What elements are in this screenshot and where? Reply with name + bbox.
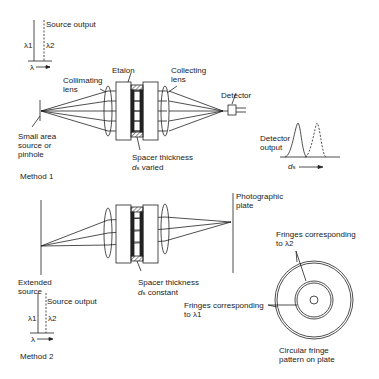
lambda2-label-1: λ2 xyxy=(46,41,54,50)
fringe-pattern xyxy=(268,251,353,339)
spacer-constant-label: ds constant xyxy=(138,288,178,298)
lambda-axis-label-2: λ xyxy=(31,335,35,344)
fringes-lambda2-label: Fringes corresponding to λ2 xyxy=(276,230,356,248)
collecting-lens-label: Collecting lens xyxy=(171,66,206,84)
lambda1-label-2: λ1 xyxy=(28,314,36,323)
diagram-drawing xyxy=(0,0,379,379)
etalon-label: Etalon xyxy=(112,66,135,75)
extended-source-label: Extended source xyxy=(18,278,52,296)
collimating-lens-label: Collimating lens xyxy=(63,76,103,94)
pinhole-source-label: Small area source or pinhole xyxy=(18,132,56,159)
lambda2-label-2: λ2 xyxy=(48,314,56,323)
detector-label: Detector xyxy=(221,91,251,100)
etalon-diagram: Source output λ1 λ2 λ Collimating lens E… xyxy=(0,0,379,379)
spacer-varied-label: ds varied xyxy=(132,163,163,173)
lambda-axis-label-1: λ xyxy=(30,63,34,72)
source-output-label-2: Source output xyxy=(47,297,97,306)
source-output-label-1: Source output xyxy=(46,20,96,29)
spacer-label-1: Spacer thickness xyxy=(132,153,193,162)
method1-title: Method 1 xyxy=(20,172,53,181)
ds-axis-label: ds xyxy=(288,162,295,172)
lambda1-label-1: λ1 xyxy=(24,41,32,50)
fringe-pattern-label: Circular fringe pattern on plate xyxy=(279,346,335,364)
detector-output-label: Detector output xyxy=(260,134,290,152)
method2-optics xyxy=(41,193,233,275)
fringes-lambda1-label: Fringes corresponding to λ1 xyxy=(184,301,264,319)
spacer-label-2: Spacer thickness xyxy=(138,278,199,287)
photographic-plate-label: Photographic plate xyxy=(236,192,283,210)
method2-title: Method 2 xyxy=(20,352,53,361)
